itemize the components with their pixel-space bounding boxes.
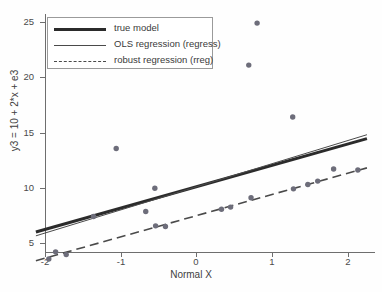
data-point [46, 256, 51, 261]
data-point [305, 182, 310, 187]
legend-entry-ols: OLS regression (regress) [54, 39, 212, 53]
legend-box: true model OLS regression (regress) robu… [47, 17, 213, 69]
data-point [228, 204, 233, 209]
data-point [153, 223, 158, 228]
line-ols-regression-regress- [36, 135, 367, 236]
data-point [91, 214, 96, 219]
legend-key-robust-icon [54, 61, 106, 63]
legend-key-true-model-icon [54, 28, 106, 31]
data-point [143, 209, 148, 214]
data-point [315, 178, 320, 183]
data-point [248, 195, 253, 200]
data-point [163, 224, 168, 229]
data-point [64, 252, 69, 257]
data-point [53, 249, 58, 254]
data-point [291, 186, 296, 191]
data-point [355, 167, 360, 172]
data-point [246, 62, 251, 67]
regression-scatter-chart: 25 20 15 10 5 -2 -1 0 1 2 Normal X y3 = … [0, 0, 382, 292]
legend-label-true-model: true model [114, 22, 159, 33]
legend-label-robust: robust regression (rreg) [114, 54, 213, 65]
regression-lines [36, 135, 367, 261]
data-point [254, 20, 259, 25]
data-point [114, 146, 119, 151]
data-point [290, 114, 295, 119]
data-point [219, 207, 224, 212]
legend-entry-true-model: true model [54, 23, 212, 37]
legend-entry-robust: robust regression (rreg) [54, 55, 212, 69]
data-point [152, 186, 157, 191]
data-point [331, 166, 336, 171]
legend-key-ols-icon [54, 45, 106, 46]
legend-label-ols: OLS regression (regress) [114, 38, 221, 49]
